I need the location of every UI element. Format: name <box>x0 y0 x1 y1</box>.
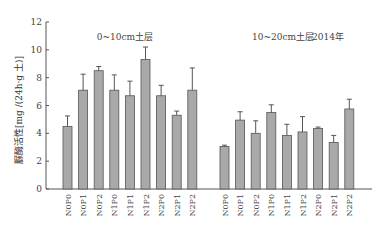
x-category-label: N0P1 <box>236 194 245 217</box>
bar <box>329 142 338 189</box>
x-category-label: N0P2 <box>95 194 104 217</box>
bar <box>172 115 181 189</box>
bar <box>141 60 150 189</box>
y-tick-label: 2 <box>36 156 42 166</box>
bar <box>125 96 134 189</box>
y-tick-label: 8 <box>36 73 42 83</box>
y-tick-label: 0 <box>36 184 42 194</box>
bar <box>314 128 323 189</box>
bar <box>188 90 197 189</box>
bar <box>267 112 276 189</box>
bar <box>157 96 166 189</box>
x-category-label: N0P0 <box>64 194 73 217</box>
x-category-label: N1P0 <box>110 194 119 217</box>
y-tick-label: 10 <box>31 45 43 55</box>
year-label: 2014年 <box>312 31 344 42</box>
x-category-label: N1P2 <box>142 194 151 217</box>
x-category-label: N2P1 <box>173 194 182 217</box>
y-tick-label: 6 <box>36 101 42 111</box>
x-category-label: N1P0 <box>267 194 276 217</box>
y-tick-label: 12 <box>31 17 42 27</box>
x-category-label: N2P0 <box>314 194 323 217</box>
x-category-label: N2P2 <box>345 194 354 217</box>
bar <box>79 90 88 189</box>
bar <box>251 133 260 189</box>
bar <box>220 147 229 189</box>
x-category-label: N2P1 <box>330 194 339 217</box>
bar <box>110 90 119 189</box>
bars: N0P0N0P1N0P2N1P0N1P1N1P2N2P0N2P1N2P2N0P0… <box>63 47 354 217</box>
x-category-label: N0P2 <box>252 194 261 217</box>
bar <box>63 126 72 189</box>
x-category-label: N1P2 <box>299 194 308 217</box>
y-tick-label: 4 <box>36 128 42 138</box>
bar <box>298 132 307 189</box>
bar <box>236 120 245 189</box>
bar <box>94 71 103 189</box>
urease-activity-bar-chart: 024681012 N0P0N0P1N0P2N1P0N1P1N1P2N2P0N2… <box>0 0 388 231</box>
x-category-label: N1P1 <box>283 194 292 217</box>
bar <box>282 135 291 189</box>
panel1-title: 0~10cm土层 <box>97 31 153 42</box>
x-category-label: N1P1 <box>126 194 135 217</box>
x-category-label: N0P1 <box>79 194 88 217</box>
x-category-label: N2P2 <box>188 194 197 217</box>
x-category-label: N0P0 <box>221 194 230 217</box>
y-axis-label: 脲酶活性[mg /(24h·g 土)] <box>13 56 24 164</box>
panel2-title: 10~20cm土层 <box>252 31 314 42</box>
bar <box>345 109 354 189</box>
x-category-label: N2P0 <box>157 194 166 217</box>
